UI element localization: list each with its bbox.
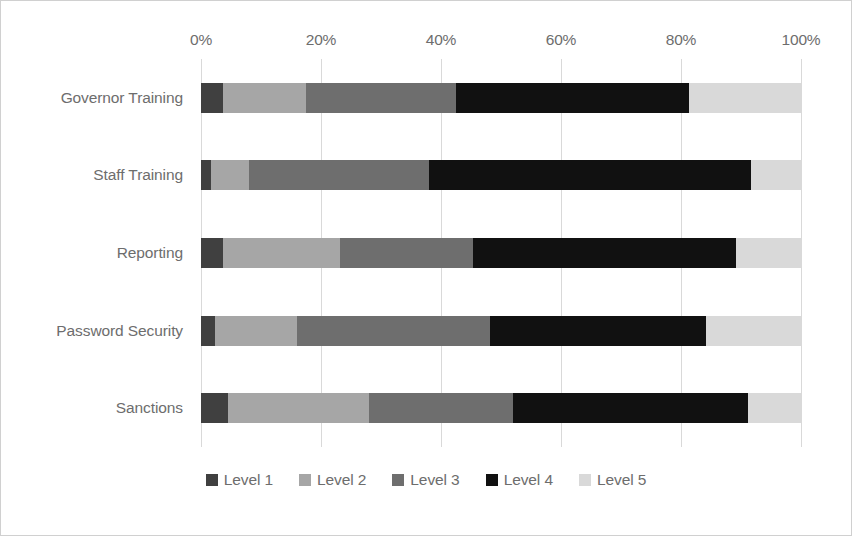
chart-legend: Level 1Level 2Level 3Level 4Level 5 — [1, 471, 851, 489]
bar-segment[interactable] — [306, 83, 456, 113]
legend-swatch-icon — [392, 474, 404, 486]
chart-container: 0%20%40%60%80%100% Governor TrainingStaf… — [0, 0, 852, 536]
x-axis-tick-label: 20% — [306, 31, 336, 49]
bar-segment[interactable] — [223, 83, 306, 113]
bar-segment[interactable] — [211, 160, 249, 190]
legend-label: Level 1 — [224, 471, 273, 489]
bar-segment[interactable] — [201, 316, 215, 346]
x-axis-tick-label: 40% — [426, 31, 456, 49]
legend-item[interactable]: Level 5 — [579, 471, 646, 489]
x-axis-tick-label: 80% — [666, 31, 696, 49]
legend-item[interactable]: Level 1 — [206, 471, 273, 489]
bar-row[interactable] — [201, 316, 801, 346]
bar-segment[interactable] — [201, 238, 223, 268]
bar-segment[interactable] — [748, 393, 801, 423]
legend-label: Level 2 — [317, 471, 366, 489]
bar-segment[interactable] — [369, 393, 513, 423]
x-axis-tick-labels: 0%20%40%60%80%100% — [1, 31, 852, 55]
bar-segment[interactable] — [201, 393, 228, 423]
bar-row[interactable] — [201, 238, 801, 268]
legend-label: Level 4 — [504, 471, 553, 489]
bar-segment[interactable] — [223, 238, 340, 268]
stacked-bars-layer — [1, 59, 852, 447]
legend-item[interactable]: Level 3 — [392, 471, 459, 489]
legend-label: Level 5 — [597, 471, 646, 489]
bar-row[interactable] — [201, 83, 801, 113]
legend-swatch-icon — [206, 474, 218, 486]
x-axis-tick-label: 60% — [546, 31, 576, 49]
bar-segment[interactable] — [706, 316, 801, 346]
bar-segment[interactable] — [751, 160, 801, 190]
bar-segment[interactable] — [429, 160, 751, 190]
bar-segment[interactable] — [490, 316, 706, 346]
legend-item[interactable]: Level 2 — [299, 471, 366, 489]
legend-item[interactable]: Level 4 — [486, 471, 553, 489]
bar-segment[interactable] — [689, 83, 801, 113]
bar-segment[interactable] — [513, 393, 748, 423]
bar-segment[interactable] — [473, 238, 736, 268]
x-axis-tick-label: 100% — [782, 31, 821, 49]
legend-swatch-icon — [486, 474, 498, 486]
legend-swatch-icon — [579, 474, 591, 486]
bar-segment[interactable] — [736, 238, 801, 268]
bar-segment[interactable] — [201, 160, 211, 190]
bar-row[interactable] — [201, 160, 801, 190]
x-axis-tick-label: 0% — [190, 31, 212, 49]
bar-segment[interactable] — [228, 393, 369, 423]
bar-segment[interactable] — [215, 316, 297, 346]
legend-swatch-icon — [299, 474, 311, 486]
legend-label: Level 3 — [410, 471, 459, 489]
bar-segment[interactable] — [249, 160, 429, 190]
bar-segment[interactable] — [340, 238, 473, 268]
bar-segment[interactable] — [201, 83, 223, 113]
bar-segment[interactable] — [456, 83, 689, 113]
bar-segment[interactable] — [297, 316, 490, 346]
bar-row[interactable] — [201, 393, 801, 423]
